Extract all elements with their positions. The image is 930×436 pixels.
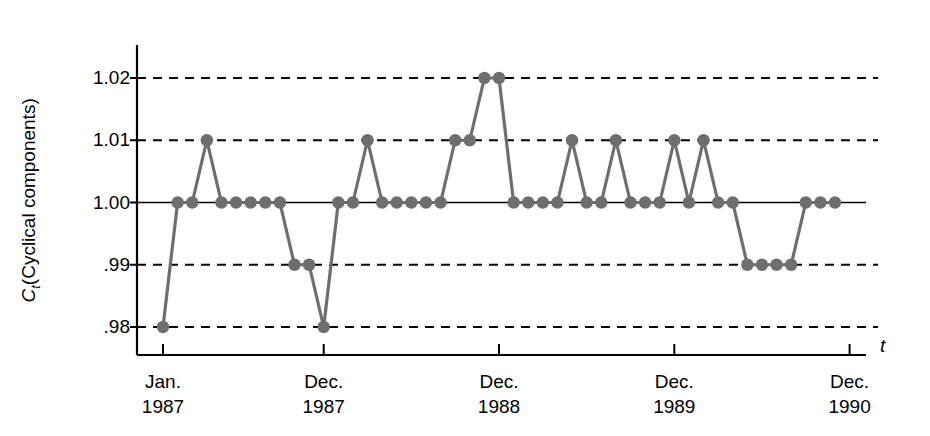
x-tick-label: Dec.1988 [478,369,520,419]
x-tick-label: Dec.1989 [653,369,695,419]
x-tick-label-month: Jan. [145,371,181,392]
x-tick-label: Dec.1990 [828,369,870,419]
x-tick-label-month: Dec. [479,371,518,392]
x-tick-label-year: 1990 [828,394,870,419]
x-tick-label: Dec.1987 [303,369,345,419]
x-tick-label-month: Dec. [304,371,343,392]
x-tick-label: Jan.1987 [142,369,184,419]
x-tick-label-month: Dec. [655,371,694,392]
x-tick-label-year: 1987 [303,394,345,419]
x-tick-label-month: Dec. [830,371,869,392]
x-tick-label-year: 1989 [653,394,695,419]
cyclical-components-chart: Ct(Cyclical components) .98.991.001.011.… [0,0,930,436]
x-axis-tick-labels: Jan.1987Dec.1987Dec.1988Dec.1989Dec.1990 [0,0,930,436]
x-tick-label-year: 1987 [142,394,184,419]
x-axis-title: t [880,335,885,357]
x-tick-label-year: 1988 [478,394,520,419]
